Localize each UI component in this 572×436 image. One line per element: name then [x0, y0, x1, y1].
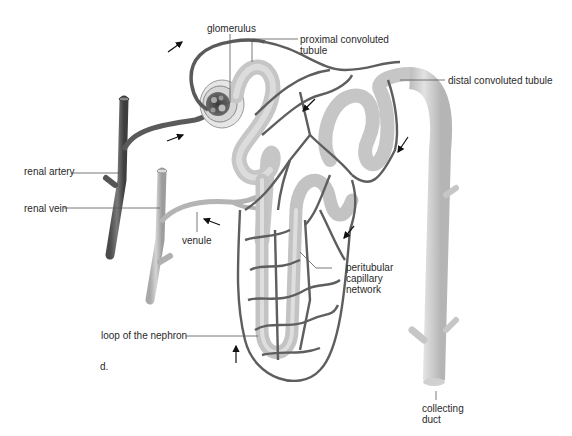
label-collecting-duct: collecting duct [422, 403, 464, 425]
nephron-illustration [0, 0, 572, 436]
label-proximal-convoluted-tubule: proximal convoluted tubule [300, 34, 389, 56]
flow-arrow-icon [398, 137, 408, 152]
label-venule: venule [182, 235, 211, 246]
label-loop-of-the-nephron: loop of the nephron [101, 330, 187, 341]
label-renal-vein: renal vein [24, 203, 67, 214]
nephron-diagram: glomerulus proximal convoluted tubule di… [0, 0, 572, 436]
label-distal-convoluted-tubule: distal convoluted tubule [448, 75, 553, 86]
label-glomerulus: glomerulus [207, 23, 256, 34]
leader-lines [64, 34, 445, 400]
panel-letter: d. [100, 361, 108, 372]
collecting-duct-vessel [410, 78, 456, 386]
flow-arrow-icon [167, 135, 183, 141]
flow-arrow-icon [204, 219, 220, 225]
glomerulus-structure [191, 40, 265, 128]
label-renal-artery: renal artery [24, 166, 75, 177]
label-peritubular-capillary-network: peritubular capillary network [346, 262, 393, 295]
flow-arrow-icon [168, 42, 182, 52]
